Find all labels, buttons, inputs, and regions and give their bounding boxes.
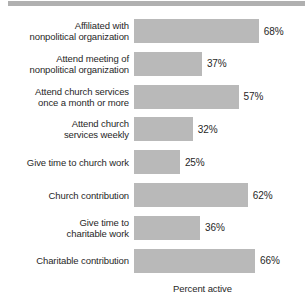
- bar-value-label: 32%: [198, 124, 218, 135]
- bar-value-label: 66%: [260, 255, 280, 266]
- bar-category-label: Give time to charitable work: [0, 217, 134, 239]
- bar: [134, 183, 248, 207]
- bar-category-label: Give time to church work: [0, 157, 134, 168]
- bar-category-label: Affiliated with nonpolitical organizatio…: [0, 20, 134, 42]
- bar-value-label: 62%: [253, 190, 273, 201]
- chart-row: Affiliated with nonpolitical organizatio…: [0, 18, 305, 44]
- x-axis-title: Percent active: [140, 283, 265, 294]
- bar-track: 68%: [134, 18, 305, 44]
- header-rule-band: [8, 1, 305, 6]
- bar-track: 32%: [134, 116, 305, 142]
- chart-row: Attend church services once a month or m…: [0, 84, 305, 110]
- bar-category-label: Charitable contribution: [0, 255, 134, 266]
- bar-track: 36%: [134, 215, 305, 241]
- bar-chart: Affiliated with nonpolitical organizatio…: [0, 0, 305, 304]
- bar-value-label: 57%: [244, 91, 264, 102]
- bar-category-label: Attend church services weekly: [0, 118, 134, 140]
- chart-row: Attend meeting of nonpolitical organizat…: [0, 51, 305, 77]
- bar-category-label: Attend church services once a month or m…: [0, 86, 134, 108]
- bar: [134, 85, 239, 109]
- bar-track: 62%: [134, 182, 305, 208]
- bar-track: 57%: [134, 84, 305, 110]
- bar-value-label: 36%: [205, 222, 225, 233]
- bar: [134, 249, 255, 273]
- bar-value-label: 25%: [185, 157, 205, 168]
- chart-row: Give time to church work25%: [0, 149, 305, 175]
- chart-plot-area: Affiliated with nonpolitical organizatio…: [0, 18, 305, 280]
- bar-value-label: 37%: [207, 58, 227, 69]
- chart-row: Attend church services weekly32%: [0, 116, 305, 142]
- chart-row: Charitable contribution66%: [0, 248, 305, 274]
- bar: [134, 216, 200, 240]
- bar: [134, 19, 259, 43]
- bar-category-label: Church contribution: [0, 190, 134, 201]
- bar-track: 66%: [134, 248, 305, 274]
- bar-category-label: Attend meeting of nonpolitical organizat…: [0, 53, 134, 75]
- bar-value-label: 68%: [264, 26, 284, 37]
- bar: [134, 117, 193, 141]
- chart-row: Give time to charitable work36%: [0, 215, 305, 241]
- bar: [134, 52, 202, 76]
- bar: [134, 150, 180, 174]
- bar-track: 37%: [134, 51, 305, 77]
- chart-row: Church contribution62%: [0, 182, 305, 208]
- bar-track: 25%: [134, 149, 305, 175]
